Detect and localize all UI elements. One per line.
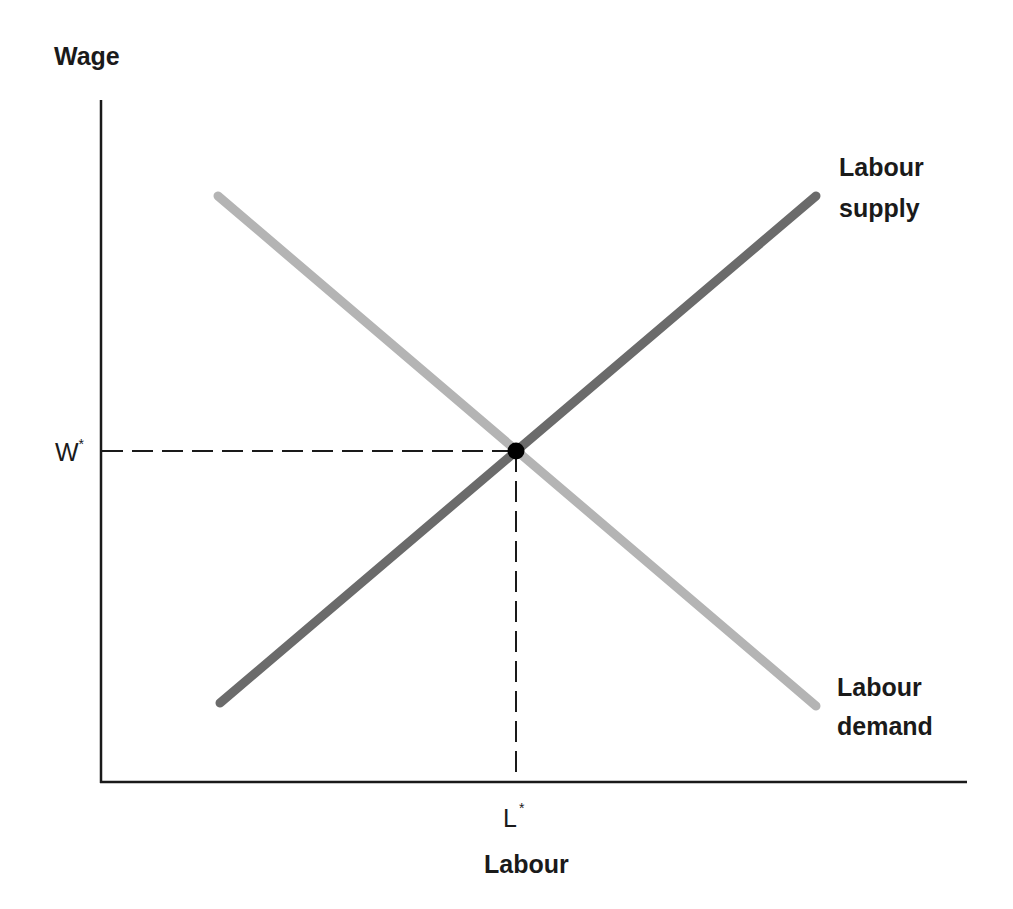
supply-label-line1: Labour [839, 153, 924, 181]
equilibrium-point [508, 443, 525, 460]
y-axis-title: Wage [54, 42, 120, 70]
w-star-label: W* [55, 436, 85, 466]
labour-market-chart: Wage Labour Labour supply Labour demand … [0, 0, 1013, 909]
x-axis-title: Labour [484, 850, 569, 878]
supply-label-line2: supply [839, 194, 920, 222]
demand-label-line1: Labour [837, 673, 922, 701]
demand-label-line2: demand [837, 712, 933, 740]
l-star-label: L* [503, 800, 525, 832]
